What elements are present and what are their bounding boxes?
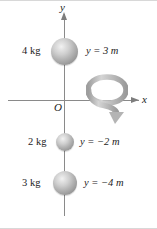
position-label-2kg: y = −2 m (80, 137, 120, 148)
position-label-3kg: y = −4 m (84, 178, 124, 189)
physics-figure: y x O 4 kg y = 3 m 2 kg y = −2 m 3 kg y … (0, 0, 157, 229)
y-axis-label: y (60, 2, 65, 13)
rotation-arrow-icon (86, 74, 128, 128)
origin-label: O (54, 102, 62, 113)
mass-label-3kg: 3 kg (22, 178, 40, 189)
mass-sphere-3kg (53, 171, 77, 195)
bottom-divider (0, 228, 157, 229)
mass-label-4kg: 4 kg (22, 46, 40, 57)
x-axis-arrowhead-icon (131, 97, 139, 103)
x-axis-label: x (142, 94, 147, 105)
mass-sphere-2kg (56, 133, 74, 151)
mass-label-2kg: 2 kg (28, 137, 46, 148)
mass-sphere-4kg (51, 38, 78, 65)
y-axis-arrowhead-icon (61, 12, 67, 20)
top-divider (0, 0, 157, 1)
position-label-4kg: y = 3 m (86, 46, 118, 57)
